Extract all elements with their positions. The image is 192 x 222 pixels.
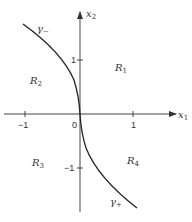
phase-plane-diagram: x2 x1 −1 1 1 −1 0 R1 R2 R3 R4 γ− γ+	[0, 0, 192, 222]
region-r2-label: R2	[29, 75, 42, 88]
gamma-minus-label: γ−	[37, 23, 49, 36]
origin-label: 0	[72, 120, 77, 130]
x1-axis-label: x1	[178, 109, 188, 122]
x-tick-label-neg1: −1	[18, 120, 28, 130]
region-r4-label: R4	[126, 155, 140, 168]
y-tick-label-neg1: −1	[64, 163, 74, 173]
region-r3-label: R3	[31, 157, 44, 170]
x2-axis-label: x2	[86, 8, 96, 21]
region-r1-label: R1	[114, 62, 127, 75]
y-tick-label-1: 1	[71, 55, 76, 65]
gamma-minus-curve	[23, 24, 80, 114]
gamma-plus-label: γ+	[110, 196, 122, 209]
x-tick-label-1: 1	[131, 120, 136, 130]
